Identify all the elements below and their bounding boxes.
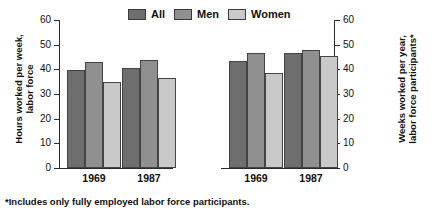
y-tick-label-10: 10	[343, 138, 383, 148]
legend-swatch-all	[128, 9, 146, 20]
bar-men-1969	[247, 53, 265, 168]
left-group-label-1987: 1987	[119, 172, 179, 184]
legend-label-women: Women	[251, 9, 291, 20]
y-tick-60	[335, 20, 340, 21]
hours-panel: 0102030405060 1969 1987	[60, 20, 172, 168]
legend-swatch-women	[228, 9, 246, 20]
y-tick-label-0: 0	[343, 163, 383, 173]
bar-all-1987	[284, 53, 302, 168]
y-tick-label-10: 10	[11, 138, 51, 148]
y-tick-label-40: 40	[343, 64, 383, 74]
y-tick-label-60: 60	[11, 15, 51, 25]
y-tick-60	[54, 20, 59, 21]
bar-women-1987	[320, 56, 338, 168]
chart-legend: All Men Women	[128, 9, 291, 20]
legend-swatch-men	[174, 9, 192, 20]
bar-all-1987	[122, 68, 140, 168]
bar-women-1987	[158, 78, 176, 168]
y-tick-label-50: 50	[11, 40, 51, 50]
chart-figure: All Men Women Hours worked per week, lab…	[0, 0, 431, 215]
y-tick-label-30: 30	[11, 89, 51, 99]
y-tick-0	[54, 168, 59, 169]
y-tick-label-50: 50	[343, 40, 383, 50]
legend-entry-all: All	[128, 9, 165, 20]
right-axis-title-line1: Weeks worked per year,	[396, 35, 407, 143]
right-axis-title-line2: labor force participants*	[407, 34, 418, 143]
bar-women-1969	[265, 73, 283, 168]
bar-all-1969	[229, 61, 247, 168]
bar-men-1969	[85, 62, 103, 168]
hours-bar-group	[60, 20, 172, 168]
bar-men-1987	[140, 60, 158, 168]
right-x-axis-line	[221, 168, 335, 169]
y-tick-50	[335, 45, 340, 46]
y-tick-30	[54, 94, 59, 95]
chart-footnote: *Includes only fully employed labor forc…	[5, 196, 249, 207]
left-x-axis-line	[59, 168, 173, 169]
y-tick-label-20: 20	[343, 114, 383, 124]
left-group-label-1969: 1969	[64, 172, 124, 184]
right-group-label-1969: 1969	[226, 172, 286, 184]
y-tick-40	[54, 69, 59, 70]
legend-entry-men: Men	[174, 9, 219, 20]
bar-all-1969	[67, 70, 85, 168]
bar-women-1969	[103, 82, 121, 168]
y-tick-label-30: 30	[343, 89, 383, 99]
y-tick-20	[54, 119, 59, 120]
y-tick-50	[54, 45, 59, 46]
right-group-label-1987: 1987	[281, 172, 341, 184]
y-tick-label-60: 60	[343, 15, 383, 25]
weeks-bar-group	[222, 20, 334, 168]
legend-label-all: All	[151, 9, 165, 20]
legend-label-men: Men	[197, 9, 219, 20]
right-axis-title: Weeks worked per year, labor force parti…	[396, 29, 418, 149]
y-tick-0	[335, 168, 340, 169]
y-tick-label-20: 20	[11, 114, 51, 124]
bar-men-1987	[302, 50, 320, 168]
y-tick-label-40: 40	[11, 64, 51, 74]
weeks-panel: 0102030405060 1969 1987	[222, 20, 334, 168]
y-tick-label-0: 0	[11, 163, 51, 173]
y-tick-10	[54, 143, 59, 144]
legend-entry-women: Women	[228, 9, 291, 20]
